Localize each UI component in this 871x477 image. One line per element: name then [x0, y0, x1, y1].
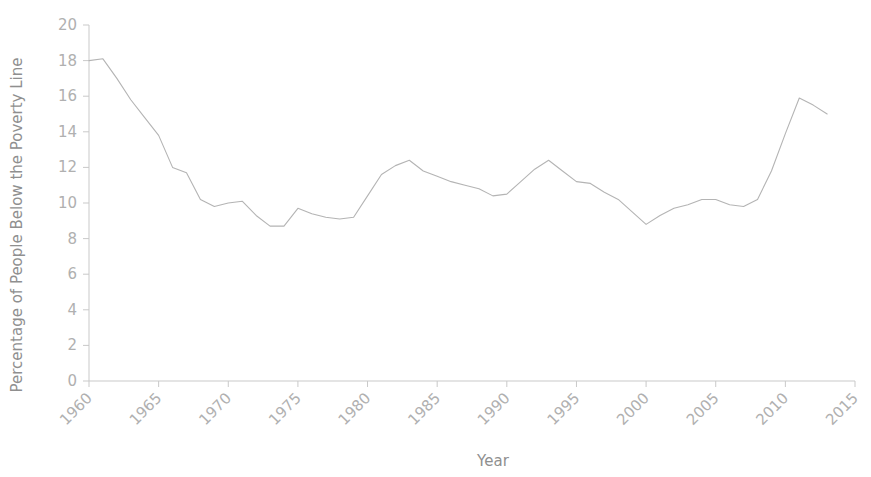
- x-tick-label: 1990: [474, 389, 514, 429]
- x-tick-label: 2005: [683, 389, 723, 429]
- x-tick-label: 1975: [265, 389, 305, 429]
- x-axis-ticks: 1960196519701975198019851990199520002005…: [56, 381, 862, 429]
- y-axis-ticks: 02468101214161820: [58, 16, 89, 390]
- poverty-line-chart-figure: 02468101214161820 1960196519701975198019…: [0, 0, 871, 477]
- y-tick-label: 12: [58, 158, 77, 176]
- x-tick-label: 1985: [404, 389, 444, 429]
- y-tick-label: 6: [67, 265, 77, 283]
- y-tick-label: 10: [58, 194, 77, 212]
- poverty-rate-line: [89, 59, 827, 226]
- y-tick-label: 20: [58, 16, 77, 34]
- x-tick-label: 2000: [613, 389, 653, 429]
- x-tick-label: 1995: [544, 389, 584, 429]
- x-tick-label: 1960: [56, 389, 96, 429]
- y-tick-label: 8: [67, 230, 77, 248]
- x-tick-label: 1980: [335, 389, 375, 429]
- y-tick-label: 4: [67, 301, 77, 319]
- x-tick-label: 1965: [126, 389, 166, 429]
- y-tick-label: 16: [58, 87, 77, 105]
- x-tick-label: 1970: [195, 389, 235, 429]
- chart-plot-area: 02468101214161820 1960196519701975198019…: [0, 0, 871, 477]
- y-axis-label: Percentage of People Below the Poverty L…: [8, 57, 26, 392]
- y-tick-label: 18: [58, 52, 77, 70]
- y-axis: 02468101214161820: [58, 16, 89, 390]
- y-tick-label: 14: [58, 123, 77, 141]
- x-axis: 1960196519701975198019851990199520002005…: [56, 381, 862, 429]
- y-tick-label: 0: [67, 372, 77, 390]
- data-series-group: [89, 59, 827, 226]
- x-tick-label: 2015: [822, 389, 862, 429]
- x-tick-label: 2010: [752, 389, 792, 429]
- y-tick-label: 2: [67, 336, 77, 354]
- x-axis-label: Year: [476, 452, 510, 470]
